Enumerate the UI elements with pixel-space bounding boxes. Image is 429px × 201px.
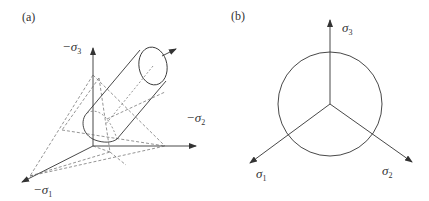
panel-b-axes [250,20,412,163]
panel-a: (a) [22,10,205,199]
axis-sigma2 [330,104,412,162]
axis-neg-sigma1 [22,146,93,182]
panel-b-label: (b) [231,9,245,23]
label-sigma3: σ3 [342,20,352,37]
label-neg-sigma1: −σ1 [33,182,52,199]
label-neg-sigma3: −σ3 [62,39,81,56]
panel-a-axes [22,48,196,182]
figure-canvas: (a) [0,0,429,201]
projection-planes [30,75,165,176]
label-neg-sigma2: −σ2 [186,110,205,127]
panel-a-label: (a) [22,10,35,24]
label-sigma1: σ1 [256,166,266,183]
label-sigma2: σ2 [382,163,392,180]
panel-b: (b) σ3 σ1 σ2 [231,9,412,183]
